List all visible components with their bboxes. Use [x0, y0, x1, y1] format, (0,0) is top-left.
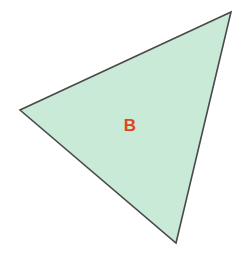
triangle-figure	[0, 0, 242, 259]
figure-canvas: B	[0, 0, 242, 259]
shape-label-b: B	[124, 117, 136, 134]
